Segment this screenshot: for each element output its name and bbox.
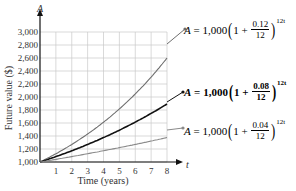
eq-fraction: 0.0412: [251, 120, 269, 141]
eq-principal: 1,000: [202, 125, 227, 137]
right-paren: ): [271, 21, 275, 39]
eq-principal: 1,000: [202, 24, 227, 36]
eq-lhs: A: [184, 86, 191, 98]
right-paren: ): [272, 83, 276, 101]
eq-sign: =: [193, 125, 199, 137]
svg-text:1,200: 1,200: [18, 144, 39, 154]
svg-text:2,400: 2,400: [18, 66, 39, 76]
x-axis-label: Time (years): [77, 175, 128, 187]
eq-numerator: 0.08: [252, 81, 270, 92]
equation-label-12-percent: A = 1,000(1 + 0.1212)12t: [184, 19, 285, 40]
svg-text:1,000: 1,000: [18, 157, 39, 167]
y-axis-variable: A: [36, 3, 44, 14]
svg-text:2,000: 2,000: [18, 92, 39, 102]
eq-denominator: 12: [256, 30, 265, 40]
svg-text:2,600: 2,600: [18, 53, 39, 63]
eq-sign: =: [194, 86, 200, 98]
svg-text:1,400: 1,400: [18, 131, 39, 141]
svg-text:2,200: 2,200: [18, 79, 39, 89]
eq-numerator: 0.12: [251, 19, 269, 30]
svg-text:2: 2: [70, 166, 75, 176]
svg-text:1,600: 1,600: [18, 118, 39, 128]
eq-one: 1: [233, 24, 239, 36]
eq-denominator: 12: [257, 92, 266, 102]
left-paren: (: [228, 122, 232, 140]
left-paren: (: [229, 83, 233, 101]
eq-exponent: 12t: [276, 17, 285, 25]
eq-exponent: 12t: [276, 118, 285, 126]
eq-plus: +: [241, 125, 247, 137]
eq-denominator: 12: [256, 131, 265, 141]
x-axis-variable: t: [186, 159, 189, 170]
eq-numerator: 0.04: [251, 120, 269, 131]
eq-sign: =: [193, 24, 199, 36]
axes: [37, 9, 183, 165]
eq-fraction: 0.0812: [252, 81, 270, 102]
eq-one: 1: [233, 125, 239, 137]
y-axis-label: Future value ($): [3, 66, 15, 130]
eq-exponent: 12t: [277, 79, 286, 87]
svg-text:8: 8: [165, 166, 170, 176]
eq-fraction: 0.1212: [251, 19, 269, 40]
equation-label-8-percent: A = 1,000(1 + 0.0812)12t: [184, 81, 286, 102]
svg-text:2,800: 2,800: [18, 40, 39, 50]
grid: [40, 32, 167, 162]
label-pointers: [167, 27, 187, 130]
equation-label-4-percent: A = 1,000(1 + 0.0412)12t: [184, 120, 285, 141]
eq-lhs: A: [184, 125, 191, 137]
svg-text:1,800: 1,800: [18, 105, 39, 115]
eq-plus: +: [241, 24, 247, 36]
svg-text:6: 6: [133, 166, 138, 176]
right-paren: ): [271, 122, 275, 140]
svg-text:7: 7: [149, 166, 154, 176]
eq-one: 1: [234, 86, 240, 98]
left-paren: (: [228, 21, 232, 39]
eq-plus: +: [242, 86, 248, 98]
svg-text:3,000: 3,000: [18, 27, 39, 37]
eq-lhs: A: [184, 24, 191, 36]
svg-text:1: 1: [54, 166, 59, 176]
eq-principal: 1,000: [203, 86, 228, 98]
